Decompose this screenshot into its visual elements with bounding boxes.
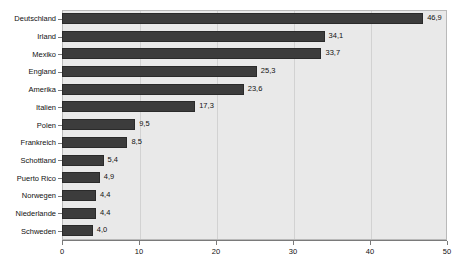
- y-tick-mark: [58, 37, 62, 38]
- x-tick-mark: [62, 241, 63, 245]
- y-tick-mark: [58, 160, 62, 161]
- x-tick-label: 10: [135, 247, 143, 256]
- category-label: Polen: [37, 120, 56, 131]
- bar: [62, 84, 244, 95]
- category-label: Niederlande: [16, 208, 56, 219]
- bar-value-label: 33,7: [325, 47, 340, 58]
- bar: [62, 172, 100, 183]
- x-axis-line: [62, 240, 447, 241]
- bar-row: 8,5: [62, 134, 447, 152]
- x-tick-label: 40: [366, 247, 374, 256]
- bar-series: 46,934,133,725,323,617,39,58,55,44,94,44…: [62, 10, 447, 240]
- y-tick-mark: [58, 143, 62, 144]
- bar-value-label: 25,3: [261, 65, 276, 76]
- x-tick-mark: [139, 241, 140, 245]
- bar-value-label: 5,4: [108, 154, 118, 165]
- bar: [62, 119, 135, 130]
- y-tick-mark: [58, 54, 62, 55]
- category-label: England: [28, 66, 56, 77]
- category-label: Norwegen: [22, 190, 56, 201]
- bar-row: 5,4: [62, 152, 447, 170]
- x-tick-mark: [293, 241, 294, 245]
- bar: [62, 208, 96, 219]
- bar: [62, 190, 96, 201]
- x-tick-mark: [447, 241, 448, 245]
- x-tick-mark: [216, 241, 217, 245]
- x-tick-label: 30: [289, 247, 297, 256]
- x-tick-label: 20: [212, 247, 220, 256]
- bar-value-label: 4,4: [100, 189, 110, 200]
- bar-row: 23,6: [62, 81, 447, 99]
- bar-value-label: 9,5: [139, 118, 149, 129]
- category-axis: DeutschlandIrlandMexikoEnglandAmerikaIta…: [0, 10, 60, 240]
- category-label: Deutschland: [14, 13, 56, 24]
- bar-row: 4,9: [62, 169, 447, 187]
- bar-row: 34,1: [62, 28, 447, 46]
- bar: [62, 48, 321, 59]
- bar-row: 4,4: [62, 187, 447, 205]
- category-label: Amerika: [28, 84, 56, 95]
- bar-row: 46,9: [62, 10, 447, 28]
- y-tick-mark: [58, 125, 62, 126]
- bar-row: 25,3: [62, 63, 447, 81]
- bar-row: 17,3: [62, 98, 447, 116]
- bar: [62, 137, 127, 148]
- x-tick-label: 0: [60, 247, 64, 256]
- category-label: Irland: [37, 31, 56, 42]
- bar-row: 9,5: [62, 116, 447, 134]
- bar-value-label: 8,5: [131, 136, 141, 147]
- bar-value-label: 17,3: [199, 100, 214, 111]
- bar: [62, 155, 104, 166]
- category-label: Schweden: [21, 226, 56, 237]
- bar: [62, 13, 423, 24]
- bar-value-label: 4,9: [104, 171, 114, 182]
- bar-value-label: 4,4: [100, 207, 110, 218]
- bar-value-label: 34,1: [329, 30, 344, 41]
- y-tick-mark: [58, 196, 62, 197]
- bar-value-label: 46,9: [427, 12, 442, 23]
- bar: [62, 225, 93, 236]
- x-tick-mark: [370, 241, 371, 245]
- category-label: Frankreich: [21, 137, 56, 148]
- bar-row: 33,7: [62, 45, 447, 63]
- y-tick-mark: [58, 231, 62, 232]
- bar: [62, 101, 195, 112]
- y-tick-mark: [58, 72, 62, 73]
- y-tick-mark: [58, 213, 62, 214]
- bar-value-label: 4,0: [97, 224, 107, 235]
- category-label: Mexiko: [32, 49, 56, 60]
- y-tick-mark: [58, 90, 62, 91]
- y-tick-mark: [58, 107, 62, 108]
- category-label: Puerto Rico: [17, 173, 56, 184]
- category-label: Schottland: [21, 155, 56, 166]
- bar-value-label: 23,6: [248, 83, 263, 94]
- bar-chart: DeutschlandIrlandMexikoEnglandAmerikaIta…: [0, 0, 457, 266]
- x-tick-label: 50: [443, 247, 451, 256]
- category-label: Italien: [36, 102, 56, 113]
- y-tick-mark: [58, 19, 62, 20]
- bar: [62, 31, 325, 42]
- y-tick-mark: [58, 178, 62, 179]
- bar-row: 4,0: [62, 222, 447, 240]
- bar-row: 4,4: [62, 205, 447, 223]
- bar: [62, 66, 257, 77]
